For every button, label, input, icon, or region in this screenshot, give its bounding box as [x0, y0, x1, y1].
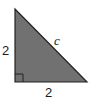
bottom-leg-label: 2: [45, 85, 52, 100]
left-leg-label: 2: [2, 43, 9, 58]
triangle-shape: [15, 9, 87, 82]
hypotenuse-label: c: [54, 33, 60, 48]
right-triangle-diagram: 2 2 c: [0, 0, 92, 101]
